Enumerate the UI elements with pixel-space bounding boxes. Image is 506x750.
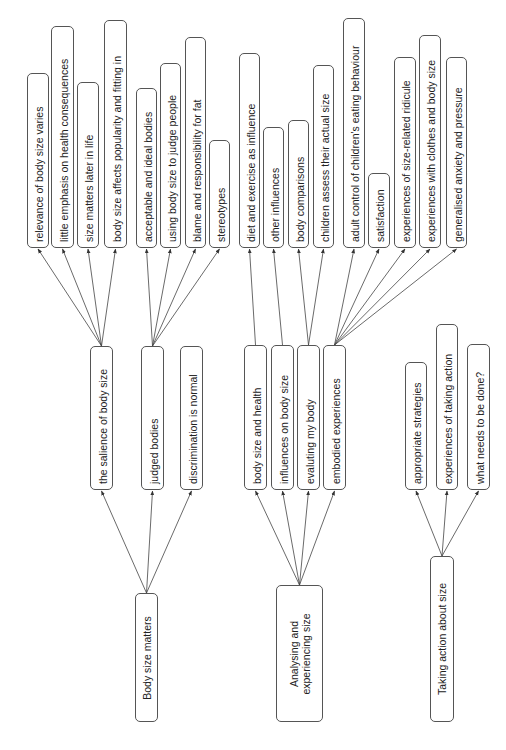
connector-arrow [309, 249, 324, 345]
connector-arrow [335, 249, 406, 345]
connector-arrow [335, 249, 355, 345]
code-label: body size affects popularity and fitting… [111, 56, 116, 242]
subtheme-label: appropriate strategies [411, 382, 416, 484]
theme-node-analysing-and-experiencing-size: Analysing andexperiencing size [276, 585, 323, 722]
code-label: satisfaction [374, 189, 379, 242]
connector-arrow [102, 491, 147, 593]
code-label: adult control of children's eating behav… [349, 46, 354, 242]
subtheme-node-influences-on-body-size: influences on body size [271, 345, 294, 490]
label-line: Analysing and [288, 590, 300, 717]
code-node-generalised-anxiety-and-pressure: generalised anxiety and pressure [446, 57, 467, 248]
connector-arrow [274, 249, 283, 345]
subtheme-label: discrimination is normal [187, 374, 192, 484]
code-label: other influences [269, 168, 274, 242]
code-node-little-emphasis-on-health-consequences: little emphasis on health consequences [51, 26, 74, 248]
code-node-body-size-affects-popularity-and-fitting-in: body size affects popularity and fitting… [104, 20, 127, 248]
connector-arrow [299, 249, 309, 345]
theme-node-taking-action-about-size: Taking action about size [430, 556, 454, 722]
connector-arrow [335, 249, 380, 345]
code-label: blame and responsibility for fat [191, 100, 196, 242]
subtheme-label: embodied experiences [330, 378, 335, 484]
connector-arrow [153, 249, 171, 346]
connector-arrow [63, 249, 102, 346]
subtheme-node-experiences-of-taking-action: experiences of taking action [436, 324, 458, 490]
theme-label: Body size matters [141, 616, 153, 699]
code-label: little emphasis on health consequences [58, 59, 63, 242]
subtheme-label: the salience of body size [97, 369, 102, 484]
connector-arrow [335, 249, 431, 345]
code-node-using-body-size-to-judge-people: using body size to judge people [160, 63, 181, 248]
code-label: generalised anxiety and pressure [452, 87, 457, 242]
connector-arrow [102, 249, 116, 346]
code-node-children-assess-their-actual-size: children assess their actual size [313, 65, 334, 248]
code-node-body-comparisons: body comparisons [288, 120, 309, 248]
code-node-experiences-with-clothes-and-body-size: experiences with clothes and body size [419, 35, 441, 248]
code-node-relevance-of-body-size-varies: relevance of body size varies [27, 73, 49, 248]
subtheme-label: evaluting my body [304, 399, 309, 484]
subtheme-label: judged bodies [148, 419, 153, 484]
code-label: acceptable and ideal bodies [142, 112, 147, 242]
code-node-stereotypes: stereotypes [209, 140, 230, 248]
code-node-blame-and-responsibility-for-fat: blame and responsibility for fat [185, 37, 206, 248]
connector-arrow [147, 249, 153, 346]
code-label: experiences of size-related ridicule [400, 80, 405, 242]
code-label: stereotypes [215, 188, 220, 242]
code-label: relevance of body size varies [33, 107, 38, 242]
connector-arrow [300, 491, 335, 585]
code-label: children assess their actual size [319, 94, 324, 242]
connector-arrow [147, 491, 153, 593]
code-node-experiences-of-size-related-ridicule: experiences of size-related ridicule [394, 57, 416, 248]
subtheme-label: body size and health [251, 388, 256, 484]
connector-arrow [147, 491, 192, 593]
subtheme-node-what-needs-to-be-done: what needs to be done? [467, 344, 490, 490]
theme-node-body-size-matters: Body size matters [135, 593, 158, 722]
connector-arrow [283, 491, 300, 585]
code-node-adult-control-of-children-s-eating-behaviour: adult control of children's eating behav… [343, 18, 365, 248]
connector-arrow [442, 491, 479, 556]
theme-label: Analysing andexperiencing size [288, 590, 312, 717]
connector-arrow [153, 249, 196, 346]
connector-arrow [38, 249, 102, 346]
code-node-other-influences: other influences [263, 127, 284, 248]
connector-arrow [416, 491, 442, 556]
code-label: size matters later in life [83, 135, 88, 242]
connector-arrow [256, 491, 300, 585]
connector-arrow [153, 249, 220, 346]
subtheme-label: influences on body size [278, 375, 283, 484]
code-node-diet-and-exercise-as-influence: diet and exercise as influence [239, 53, 260, 248]
subtheme-node-evaluting-my-body: evaluting my body [297, 345, 320, 490]
subtheme-node-the-salience-of-body-size: the salience of body size [90, 346, 113, 490]
connector-arrow [250, 249, 256, 345]
connector-arrow [300, 491, 309, 585]
connector-arrow [442, 491, 447, 556]
connector-arrow [88, 249, 102, 346]
subtheme-node-appropriate-strategies: appropriate strategies [405, 362, 427, 490]
code-label: diet and exercise as influence [245, 104, 250, 242]
subtheme-node-embodied-experiences: embodied experiences [323, 345, 346, 490]
code-node-acceptable-and-ideal-bodies: acceptable and ideal bodies [136, 88, 157, 248]
label-line: experiencing size [300, 590, 312, 717]
code-label: using body size to judge people [166, 95, 171, 242]
subtheme-node-body-size-and-health: body size and health [244, 345, 267, 490]
code-label: body comparisons [294, 157, 299, 242]
code-label: experiences with clothes and body size [425, 60, 430, 242]
subtheme-label: experiences of taking action [442, 354, 447, 484]
code-node-size-matters-later-in-life: size matters later in life [77, 82, 99, 248]
thematic-map: Body size mattersthe salience of body si… [0, 0, 506, 750]
subtheme-node-discrimination-is-normal: discrimination is normal [180, 346, 203, 490]
subtheme-node-judged-bodies: judged bodies [141, 346, 164, 490]
subtheme-label: what needs to be done? [474, 372, 479, 484]
code-node-satisfaction: satisfaction [368, 173, 390, 248]
theme-label: Taking action about size [436, 583, 448, 695]
